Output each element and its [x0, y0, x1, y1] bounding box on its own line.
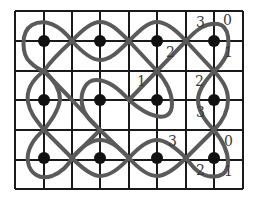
grid-dot — [151, 35, 163, 47]
crossing-label: 0 — [223, 12, 232, 28]
grid-dot — [208, 35, 220, 47]
grid-dot — [208, 94, 220, 106]
crossing-label: 3 — [196, 104, 205, 120]
crossing-label: 3 — [196, 14, 205, 30]
curve-top-left-loop — [24, 22, 73, 71]
curve-mid-center-loop — [82, 80, 129, 130]
crossing-label: 2 — [195, 73, 204, 89]
grid-dot — [151, 94, 163, 106]
curve-diag-1 — [186, 41, 214, 71]
knot-grid-diagram: 30211233021 — [0, 0, 255, 203]
crossing-label: 1 — [224, 163, 233, 179]
grid-dot — [208, 152, 220, 164]
crossing-label: 1 — [137, 73, 146, 89]
grid-dot — [94, 152, 106, 164]
grid-dot — [94, 35, 106, 47]
crossing-label: 2 — [166, 44, 175, 60]
grid-dot — [38, 94, 50, 106]
crossing-label: 2 — [196, 162, 205, 178]
grid-dot — [94, 94, 106, 106]
crossing-label: 0 — [224, 133, 233, 149]
crossing-label: 3 — [168, 133, 177, 149]
grid-dot — [151, 152, 163, 164]
crossing-label: 1 — [224, 44, 233, 60]
grid-dot — [38, 35, 50, 47]
grid-dot — [38, 152, 50, 164]
curve-diag-3 — [129, 41, 157, 71]
